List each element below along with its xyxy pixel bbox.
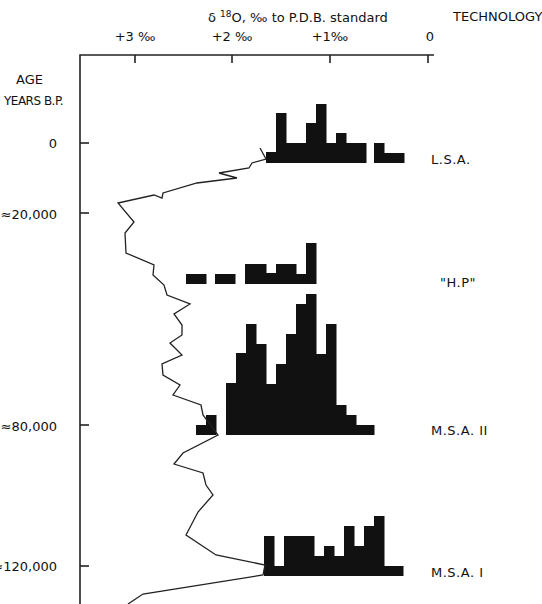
histogram-bar	[276, 113, 287, 163]
histogram-bar	[274, 566, 285, 576]
histogram-bar	[306, 243, 317, 284]
technology-histograms	[186, 104, 405, 576]
histogram-bar	[306, 123, 317, 163]
histogram-bar	[326, 143, 337, 163]
histogram-bar	[354, 546, 365, 576]
y-tick-label: ≈120,000	[0, 559, 57, 574]
histogram-bar	[215, 274, 236, 284]
histogram-bar	[314, 556, 325, 576]
histogram-bar	[344, 526, 355, 576]
histogram-bar	[324, 546, 335, 576]
histogram-bar	[374, 143, 385, 163]
histogram-l-s-a-	[266, 104, 405, 163]
x-tick-label: 0	[426, 29, 434, 44]
y-axis-label-years: YEARS B.P.	[4, 94, 63, 108]
x-tick-label: +3 ‰	[115, 29, 156, 44]
histogram-bar	[384, 566, 404, 576]
histogram-bar	[346, 143, 367, 163]
x-tick-label: +1‰	[312, 29, 349, 44]
histogram-bar	[346, 415, 357, 435]
histogram-bar	[336, 133, 347, 163]
histogram-bar	[284, 536, 315, 576]
histogram-bar	[364, 526, 375, 576]
histogram-h-p	[186, 243, 317, 284]
histogram-bar	[236, 353, 247, 435]
histogram-bar	[326, 324, 337, 435]
y-tick-label: 0	[49, 136, 57, 151]
histogram-bar	[374, 516, 385, 576]
histogram-bar	[256, 344, 267, 435]
histogram-bar	[286, 334, 297, 435]
histogram-bar	[276, 364, 287, 435]
y-tick-label: ≈20,000	[1, 207, 57, 222]
tech-label-msa-i: M.S.A. I	[431, 565, 484, 580]
histogram-bar	[266, 384, 277, 435]
histogram-bar	[306, 294, 317, 435]
histogram-bar	[316, 354, 327, 435]
tech-label-lsa: L.S.A.	[431, 152, 471, 167]
histogram-bar	[266, 152, 277, 163]
histogram-bar	[384, 153, 405, 163]
histogram-bar	[196, 425, 207, 435]
histogram-bar	[286, 143, 307, 163]
histogram-bar	[296, 274, 307, 284]
histogram-bar	[226, 383, 237, 435]
technology-header: TECHNOLOGY	[453, 9, 542, 24]
histogram-bar	[186, 274, 207, 284]
x-tick-label: +2 ‰	[212, 29, 253, 44]
chart-title: δ 18O, ‰ to P.D.B. standard	[208, 9, 388, 25]
y-tick-label: ≈80,000	[1, 419, 57, 434]
tech-label-msa-ii: M.S.A. II	[431, 423, 488, 438]
histogram-bar	[336, 405, 347, 435]
histogram-bar	[296, 304, 307, 435]
histogram-bar	[316, 104, 327, 163]
histogram-m-s-a-ii	[196, 294, 375, 435]
histogram-bar	[246, 324, 257, 435]
histogram-bar	[266, 273, 277, 284]
y-axis-label-age: AGE	[16, 72, 43, 87]
histogram-bar	[245, 264, 267, 284]
tech-label-hp: "H.P"	[440, 275, 476, 290]
histogram-m-s-a-i	[264, 516, 404, 576]
histogram-bar	[276, 264, 297, 284]
histogram-bar	[264, 536, 275, 576]
histogram-bar	[334, 556, 345, 576]
histogram-bar	[356, 425, 375, 435]
